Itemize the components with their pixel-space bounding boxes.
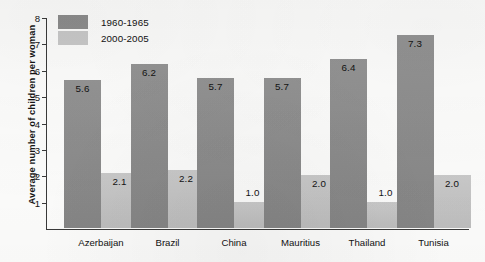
y-tick-mark	[42, 203, 46, 204]
x-axis-line	[46, 229, 469, 230]
bar-value-label: 6.2	[131, 67, 168, 78]
legend-item-2000-2005: 2000-2005	[58, 30, 149, 46]
y-tick-label: 2	[35, 171, 40, 182]
y-tick-mark	[42, 44, 46, 45]
bar-group: 7.32.0	[397, 17, 471, 228]
y-tick-mark	[42, 124, 46, 125]
bar: 7.3	[397, 35, 434, 228]
y-tick-label: 8	[35, 13, 40, 24]
legend-swatch-icon-2000-2005	[58, 31, 88, 45]
bar-group: 5.72.0	[264, 17, 338, 228]
bar-chart-figure: Average number of children per woman 123…	[0, 0, 485, 262]
legend-item-1960-1965: 1960-1965	[58, 14, 149, 30]
y-tick-label: 6	[35, 65, 40, 76]
bar: 6.4	[330, 59, 367, 228]
category-label-tunisia: Tunisia	[386, 237, 482, 248]
bar-group: 5.62.1	[64, 17, 138, 228]
legend-swatch-icon-1960-1965	[58, 15, 88, 29]
legend-label-1960-1965: 1960-1965	[101, 17, 149, 28]
bar-group: 5.71.0	[197, 17, 271, 228]
y-tick-label: 7	[35, 39, 40, 50]
legend-label-2000-2005: 2000-2005	[101, 33, 149, 44]
bar-value-label: 5.7	[264, 81, 301, 92]
y-tick-mark	[42, 71, 46, 72]
chart-legend: 1960-1965 2000-2005	[58, 14, 149, 46]
bar-value-label: 6.4	[330, 62, 367, 73]
y-axis-line	[46, 18, 47, 230]
bar-value-label: 5.7	[197, 81, 234, 92]
bar: 5.7	[264, 78, 301, 228]
plot-area: 12345678 5.62.16.22.25.71.05.72.06.41.07…	[46, 18, 468, 229]
y-tick-mark	[42, 97, 46, 98]
y-tick-label: 5	[35, 92, 40, 103]
bar-value-label: 7.3	[397, 38, 434, 49]
bar: 5.6	[64, 80, 101, 228]
y-tick-mark	[42, 150, 46, 151]
y-tick-mark	[42, 176, 46, 177]
bar: 6.2	[131, 64, 168, 228]
bar: 5.7	[197, 78, 234, 228]
y-tick-label: 3	[35, 144, 40, 155]
bar-value-label: 5.6	[64, 83, 101, 94]
y-tick-mark	[42, 18, 46, 19]
y-tick-label: 1	[35, 197, 40, 208]
y-tick-label: 4	[35, 118, 40, 129]
bar-group: 6.41.0	[330, 17, 404, 228]
bar: 2.0	[434, 175, 471, 228]
bar-value-label: 2.0	[434, 178, 471, 189]
bar-group: 6.22.2	[131, 17, 205, 228]
